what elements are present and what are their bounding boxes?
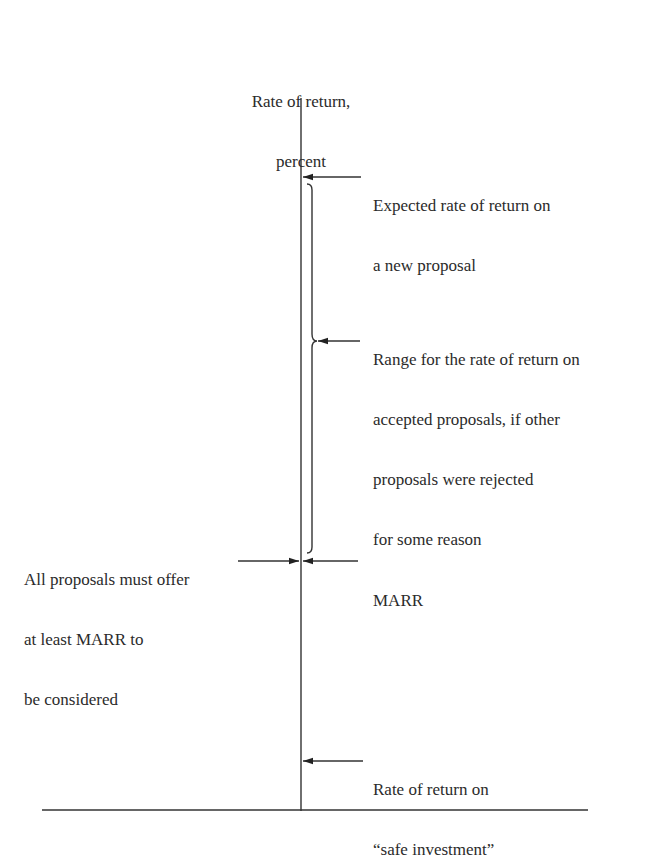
expected-rate-label: Expected rate of return on a new proposa… xyxy=(373,156,550,296)
range-line4: for some reason xyxy=(373,530,580,550)
axis-label: Rate of return, percent xyxy=(241,52,361,192)
all-proposals-line1: All proposals must offer xyxy=(24,570,189,590)
axis-label-line2: percent xyxy=(241,152,361,172)
expected-rate-line1: Expected rate of return on xyxy=(373,196,550,216)
range-label: Range for the rate of return on accepted… xyxy=(373,310,580,570)
marr-label: MARR xyxy=(373,551,423,631)
marr-text: MARR xyxy=(373,591,423,611)
safe-investment-label: Rate of return on “safe investment” xyxy=(373,740,494,859)
range-line2: accepted proposals, if other xyxy=(373,410,580,430)
range-bracket xyxy=(307,184,317,553)
safe-investment-line2: “safe investment” xyxy=(373,840,494,859)
expected-rate-line2: a new proposal xyxy=(373,256,550,276)
range-line1: Range for the rate of return on xyxy=(373,350,580,370)
all-proposals-line3: be considered xyxy=(24,690,189,710)
safe-investment-line1: Rate of return on xyxy=(373,780,494,800)
all-proposals-label: All proposals must offer at least MARR t… xyxy=(24,530,189,730)
range-line3: proposals were rejected xyxy=(373,470,580,490)
all-proposals-line2: at least MARR to xyxy=(24,630,189,650)
axis-label-line1: Rate of return, xyxy=(241,92,361,112)
